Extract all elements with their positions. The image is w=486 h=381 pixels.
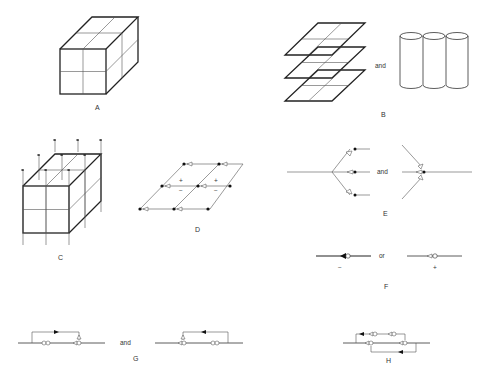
- panel-d-grid: [138, 162, 243, 211]
- panel-d-sign-plus-2: +: [214, 177, 218, 184]
- panel-b-cylinders: [400, 33, 468, 89]
- panel-a-label: A: [95, 104, 100, 111]
- panel-g-right-loop: [155, 330, 243, 345]
- figure-canvas: A and B: [0, 0, 486, 381]
- panel-c-label: C: [58, 254, 63, 261]
- panel-g-label: G: [133, 355, 138, 362]
- panel-g-left-loop: [18, 330, 105, 345]
- panel-f-connector: or: [379, 252, 386, 259]
- panel-h-label: H: [386, 357, 391, 364]
- panel-f-label: F: [384, 283, 388, 290]
- panel-d-label: D: [195, 226, 200, 233]
- panel-b-planes: [285, 23, 365, 101]
- panel-f-positive-symbol: [407, 254, 462, 258]
- panel-e-connector: and: [377, 168, 388, 175]
- panel-g-connector: and: [120, 339, 131, 346]
- panel-d-sign-minus-2: −: [214, 187, 218, 194]
- panel-c-flux-arrows: [23, 140, 101, 245]
- panel-b-connector: and: [375, 62, 386, 69]
- panel-f-sign-minus: −: [338, 264, 342, 271]
- panel-a-cube: [60, 17, 138, 94]
- panel-h-double-loop: [343, 332, 430, 354]
- panel-e-branch-left: [287, 148, 370, 197]
- panel-e-branch-right: [402, 145, 472, 199]
- panel-b-label: B: [381, 111, 386, 118]
- panel-f-negative-symbol: [316, 253, 371, 259]
- panel-d-sign-minus-1: −: [179, 187, 183, 194]
- panel-d-sign-plus-1: +: [179, 177, 183, 184]
- panel-e-label: E: [383, 210, 388, 217]
- panel-f-sign-plus: +: [433, 264, 437, 271]
